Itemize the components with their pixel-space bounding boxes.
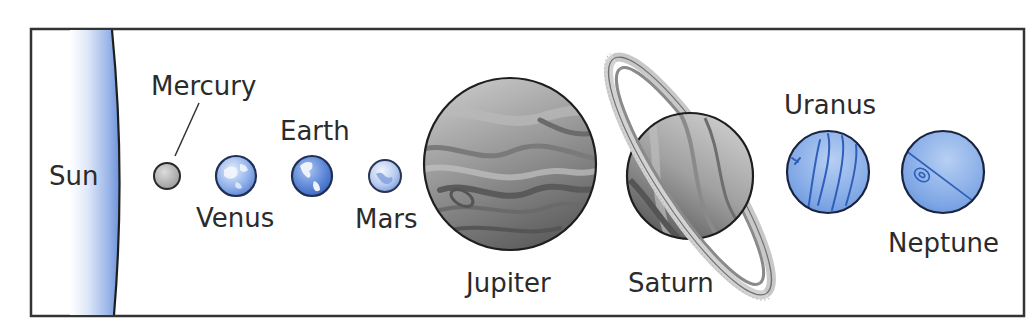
venus-icon [216,156,256,196]
mars-label: Mars [355,206,418,232]
neptune-label: Neptune [888,230,999,256]
earth-label: Earth [280,118,350,144]
solar-system-diagram: Sun Mercury Venus Earth Mars Jupiter Sat… [0,0,1035,329]
sun-label: Sun [49,163,98,189]
venus-label: Venus [196,205,274,231]
mars-icon [369,160,401,192]
neptune-icon [902,131,985,213]
mercury-label: Mercury [151,73,256,99]
saturn-label: Saturn [628,270,714,296]
uranus-label: Uranus [784,92,876,118]
earth-icon [292,156,332,196]
jupiter-label: Jupiter [466,270,551,296]
uranus-icon [787,131,869,213]
